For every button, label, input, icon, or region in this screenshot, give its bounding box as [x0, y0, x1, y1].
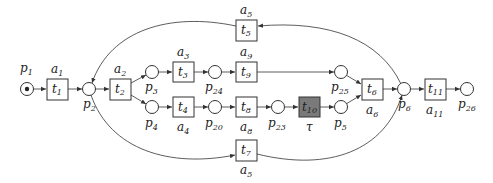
transition-t7: t7 a5 [236, 140, 257, 179]
transition-t6: t6 a6 [362, 79, 383, 119]
place-label: p1 [20, 61, 33, 77]
transition-t10-silent: t10 τ [299, 97, 320, 134]
svg-text:a11: a11 [426, 103, 443, 119]
place-p3: p3 [145, 66, 159, 97]
transition-t3: t3 a3 [173, 45, 194, 82]
svg-text:p23: p23 [268, 116, 286, 132]
arcs [33, 21, 460, 160]
transition-t5: t5 a5 [236, 3, 257, 41]
arc-t2-p4 [131, 95, 146, 104]
svg-text:p6: p6 [398, 97, 411, 113]
place-p20: p20 [205, 101, 223, 133]
arc-t2-p3 [131, 75, 146, 83]
transition-t2: t2 a2 [110, 62, 131, 100]
svg-text:p20: p20 [205, 116, 223, 132]
svg-text:a3: a3 [177, 45, 189, 61]
svg-text:a8: a8 [240, 120, 252, 136]
token-icon [25, 87, 29, 91]
svg-text:p5: p5 [334, 116, 347, 132]
arc-p6-t5 [258, 25, 401, 84]
place-p4: p4 [145, 101, 159, 133]
svg-text:p26: p26 [458, 97, 476, 113]
svg-text:p2: p2 [83, 97, 96, 113]
place-p1: p1 [20, 61, 34, 96]
transition-t11: t11 a11 [425, 79, 446, 119]
transition-t8: t8 a8 [236, 97, 257, 136]
place-p23: p23 [268, 101, 286, 133]
arc-p5-t6 [346, 95, 361, 104]
transitions: t1 a1 t2 a2 t3 a3 t4 a4 t5 a5 t9 a9 [47, 3, 446, 179]
svg-text:p24: p24 [205, 80, 223, 96]
svg-text:p3: p3 [145, 80, 158, 96]
transition-t1: t1 a1 [47, 62, 68, 100]
place-p6: p6 [398, 83, 411, 114]
place-p24: p24 [205, 66, 223, 97]
place-p25: p25 [331, 66, 349, 97]
svg-text:a5: a5 [240, 3, 252, 19]
svg-text:a5: a5 [240, 163, 252, 179]
svg-text:p25: p25 [331, 80, 349, 96]
arc-p25-t6 [346, 75, 361, 84]
svg-text:a9: a9 [240, 45, 252, 61]
svg-text:a6: a6 [366, 103, 378, 119]
transition-t9: t9 a9 [236, 45, 257, 82]
petri-net-diagram: p1 p2 p3 p4 p24 p20 p23 p25 [0, 0, 493, 183]
place-p5: p5 [334, 101, 348, 133]
place-p2: p2 [83, 83, 96, 114]
transition-t4: t4 a4 [173, 97, 194, 136]
svg-text:τ: τ [306, 120, 313, 134]
place-p26: p26 [458, 83, 476, 114]
svg-text:a2: a2 [114, 62, 126, 78]
svg-text:p4: p4 [145, 116, 158, 132]
svg-text:a1: a1 [51, 62, 63, 78]
svg-text:a4: a4 [177, 120, 189, 136]
